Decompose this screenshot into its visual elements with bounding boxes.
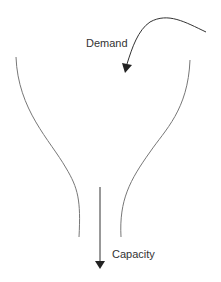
capacity-label: Capacity (112, 248, 155, 260)
demand-arrowhead-icon (122, 63, 132, 73)
funnel-right-wall (121, 60, 190, 237)
demand-label: Demand (86, 37, 128, 49)
funnel-left-wall (16, 57, 80, 237)
capacity-arrowhead-icon (95, 261, 105, 269)
demand-arrow (127, 18, 206, 64)
